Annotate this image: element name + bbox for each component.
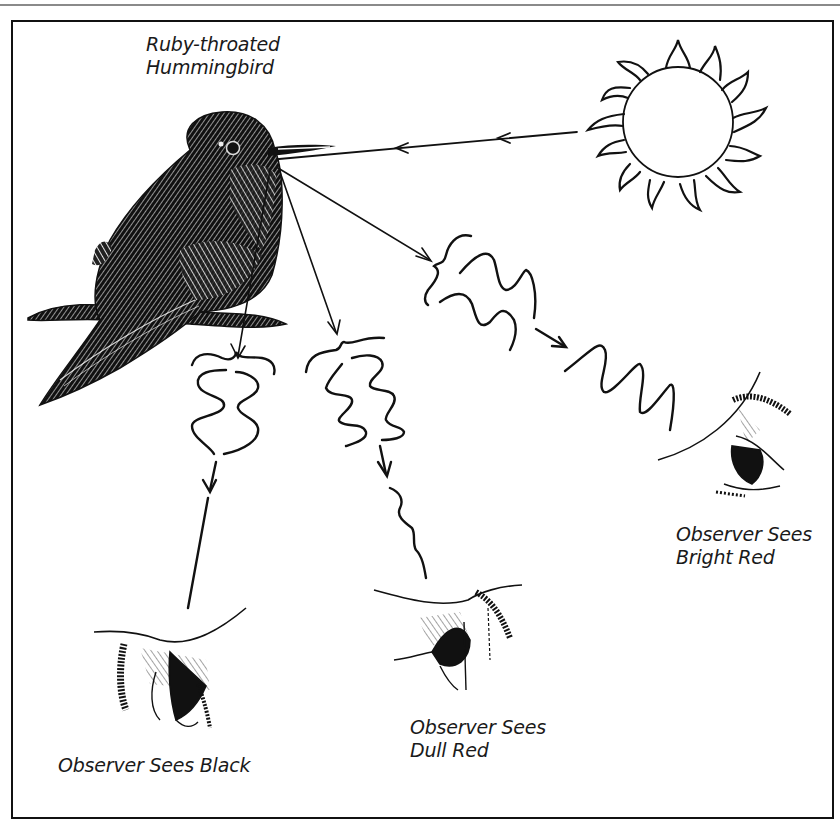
bright-red-line-1: Observer Sees <box>676 523 812 546</box>
bright-red-label: Observer Sees Bright Red <box>676 523 812 569</box>
diagram-artwork <box>0 0 840 825</box>
observer-eye-icon <box>374 585 522 690</box>
title-line-2: Hummingbird <box>146 56 280 79</box>
observer-eye-icon <box>94 608 246 728</box>
observer-eye-icon <box>658 372 790 496</box>
dull-red-line-1: Observer Sees <box>410 716 546 739</box>
title-line-1: Ruby-throated <box>146 33 280 56</box>
light-wave-icon <box>306 338 426 578</box>
title-label: Ruby-throated Hummingbird <box>146 33 280 79</box>
sun-icon <box>588 40 766 210</box>
light-wave-icon <box>425 235 674 430</box>
black-label: Observer Sees Black <box>58 754 250 777</box>
hummingbird-illustration <box>28 112 336 405</box>
dull-red-label: Observer Sees Dull Red <box>410 716 546 762</box>
light-wave-icon <box>188 352 275 608</box>
black-line-1: Observer Sees Black <box>58 754 250 777</box>
bright-red-line-2: Bright Red <box>676 546 812 569</box>
dull-red-line-2: Dull Red <box>410 739 546 762</box>
